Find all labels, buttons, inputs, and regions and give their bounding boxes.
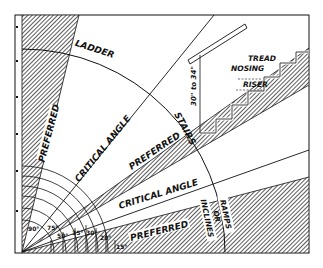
svg-text:15°: 15°	[116, 243, 127, 250]
svg-text:50°: 50°	[57, 232, 68, 239]
handrail-height-label: 30" to 34"	[190, 66, 198, 106]
angle-diagram: LADDER PREFERRED CRITICAL ANGLE STAIRS P…	[0, 0, 323, 268]
svg-text:90°: 90°	[28, 225, 39, 232]
svg-text:35°: 35°	[72, 229, 83, 236]
svg-text:20°: 20°	[100, 234, 111, 241]
tread-label: TREAD	[248, 54, 276, 63]
riser-label: RISER	[243, 80, 268, 89]
svg-text:75°: 75°	[47, 224, 58, 231]
nosing-label: NOSING	[231, 64, 264, 73]
svg-text:30°: 30°	[86, 229, 97, 236]
